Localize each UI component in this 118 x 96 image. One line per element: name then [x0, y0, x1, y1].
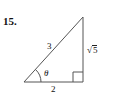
right-triangle-figure — [0, 0, 118, 96]
hypotenuse-label: 3 — [47, 41, 52, 51]
opposite-label: √5 — [87, 45, 97, 55]
angle-arc — [36, 70, 42, 83]
angle-theta-label: θ — [44, 68, 48, 78]
adjacent-label: 2 — [51, 84, 56, 94]
radicand: 5 — [92, 45, 98, 55]
sqrt-expression: √5 — [87, 45, 97, 55]
right-angle-marker — [73, 72, 83, 82]
